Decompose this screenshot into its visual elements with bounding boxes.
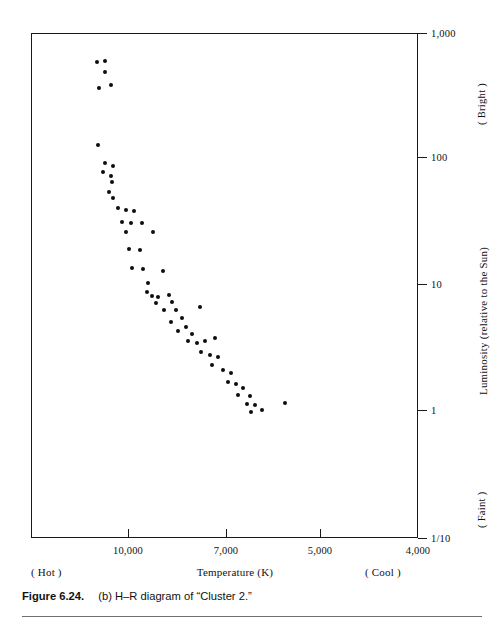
scatter-plot-area — [31, 33, 418, 538]
x-axis-cool-note: ( Cool ) — [365, 566, 401, 578]
scatter-point — [161, 269, 166, 274]
x-axis-tick — [320, 529, 321, 538]
scatter-point — [195, 341, 200, 346]
y-axis-title: Luminosity (relative to the Sun) — [477, 247, 489, 395]
scatter-point — [186, 339, 191, 344]
scatter-point — [97, 86, 102, 91]
scatter-point — [111, 196, 116, 201]
scatter-point — [221, 368, 226, 373]
scatter-point — [109, 174, 114, 179]
y-axis-tick — [418, 538, 427, 539]
scatter-point — [283, 401, 288, 406]
scatter-point — [151, 230, 156, 235]
y-axis-tick-label: 1,000 — [431, 28, 456, 39]
scatter-point — [203, 339, 208, 344]
scatter-point — [132, 209, 137, 214]
scatter-point — [124, 230, 129, 235]
scatter-point — [124, 208, 129, 213]
scatter-point — [190, 332, 195, 337]
scatter-point — [95, 60, 100, 65]
scatter-point — [234, 382, 239, 387]
scatter-point — [103, 161, 108, 166]
scatter-point — [162, 308, 167, 313]
scatter-point — [109, 83, 114, 88]
scatter-point — [145, 290, 150, 295]
scatter-point — [170, 300, 175, 305]
scatter-point — [169, 320, 174, 325]
scatter-point — [130, 266, 135, 271]
y-axis-tick — [418, 157, 427, 158]
x-axis-tick — [128, 529, 129, 538]
scatter-point — [167, 293, 172, 298]
y-axis-tick-label: 1/10 — [431, 533, 450, 544]
scatter-point — [248, 394, 253, 399]
y-axis-tick-label: 100 — [431, 152, 447, 163]
scatter-point — [245, 402, 250, 407]
scatter-point — [103, 59, 108, 64]
x-axis-tick-label: 7,000 — [214, 545, 239, 556]
scatter-point — [129, 221, 134, 226]
scatter-point — [150, 294, 155, 299]
figure-number: Figure 6.24. — [22, 590, 84, 602]
scatter-point — [184, 325, 189, 330]
scatter-point — [216, 355, 221, 360]
scatter-point — [236, 393, 241, 398]
scatter-point — [176, 329, 181, 334]
x-axis-tick-label: 5,000 — [308, 545, 333, 556]
scatter-point — [141, 267, 146, 272]
scatter-point — [210, 363, 215, 368]
scatter-point — [140, 221, 145, 226]
scatter-point — [226, 380, 231, 385]
figure-caption-text: (b) H–R diagram of “Cluster 2.” — [98, 590, 252, 602]
scatter-point — [174, 308, 179, 313]
scatter-point — [120, 220, 125, 225]
x-axis-tick — [226, 529, 227, 538]
scatter-point — [154, 301, 159, 306]
scatter-point — [229, 371, 234, 376]
x-axis-tick-label: 4,000 — [406, 545, 431, 556]
y-axis-bright-note: ( Bright ) — [476, 83, 487, 125]
scatter-point — [260, 408, 265, 413]
scatter-point — [138, 248, 143, 253]
scatter-point — [111, 164, 116, 169]
scatter-point — [199, 350, 204, 355]
scatter-point — [127, 247, 132, 252]
caption-divider-rule — [22, 616, 482, 617]
y-axis-faint-note: ( Faint ) — [476, 491, 487, 528]
x-axis-tick-label: 10,000 — [113, 545, 143, 556]
y-axis-tick-label: 1 — [431, 405, 436, 416]
scatter-point — [146, 281, 151, 286]
scatter-point — [107, 190, 112, 195]
scatter-point — [180, 316, 185, 321]
x-axis-title: Temperature (K) — [0, 566, 504, 578]
y-axis-tick — [418, 33, 427, 34]
scatter-point — [253, 403, 258, 408]
scatter-point — [213, 336, 218, 341]
scatter-point — [198, 305, 203, 310]
scatter-point — [249, 410, 254, 415]
scatter-point — [156, 295, 161, 300]
figure-caption: Figure 6.24.(b) H–R diagram of “Cluster … — [22, 590, 252, 602]
y-axis-tick-label: 10 — [431, 279, 442, 290]
scatter-point — [208, 353, 213, 358]
scatter-point — [103, 70, 108, 75]
scatter-point — [110, 180, 115, 185]
figure-container: 1,0001001011/10 10,0007,0005,0004,000 ( … — [0, 0, 504, 633]
scatter-point — [116, 206, 121, 211]
scatter-point — [96, 143, 101, 148]
scatter-point — [101, 170, 106, 175]
y-axis-tick — [418, 284, 427, 285]
scatter-point — [241, 386, 246, 391]
y-axis-tick — [418, 410, 427, 411]
